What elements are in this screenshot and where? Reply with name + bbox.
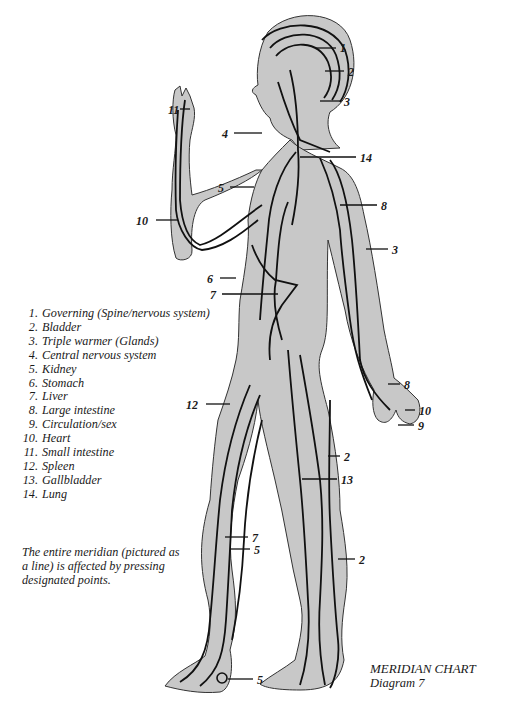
callout-label: 10 <box>136 215 148 227</box>
legend-item: 10.Heart <box>18 432 218 446</box>
legend-label: Small intestine <box>42 446 218 460</box>
legend-number: 14. <box>18 488 42 502</box>
legend-label: Central nervous system <box>42 349 218 363</box>
legend-number: 2. <box>18 321 42 335</box>
callout-label: 9 <box>418 420 424 432</box>
callout-label: 11 <box>168 104 179 116</box>
legend-label: Heart <box>42 432 218 446</box>
legend-label: Triple warmer (Glands) <box>42 335 218 349</box>
legend-item: 14.Lung <box>18 488 218 502</box>
legend-number: 11. <box>18 446 42 460</box>
legend-number: 6. <box>18 377 42 391</box>
legend-item: 3.Triple warmer (Glands) <box>18 335 218 349</box>
caption-title: MERIDIAN CHART <box>370 662 476 676</box>
legend-label: Spleen <box>42 460 218 474</box>
legend-number: 4. <box>18 349 42 363</box>
legend-item: 13.Gallbladder <box>18 474 218 488</box>
callout-label: 5 <box>218 182 224 194</box>
legend-label: Kidney <box>42 363 218 377</box>
callout-label: 3 <box>344 96 350 108</box>
callout-label: 2 <box>344 451 350 463</box>
callout-label: 13 <box>341 474 353 486</box>
explanatory-note: The entire meridian (pictured as a line)… <box>22 545 182 587</box>
legend-number: 9. <box>18 418 42 432</box>
callout-label: 3 <box>392 244 398 256</box>
callout-label: 1 <box>340 42 346 54</box>
legend-item: 2.Bladder <box>18 321 218 335</box>
figure-caption: MERIDIAN CHART Diagram 7 <box>370 662 476 690</box>
legend-number: 5. <box>18 363 42 377</box>
legend-number: 13. <box>18 474 42 488</box>
legend-item: 5.Kidney <box>18 363 218 377</box>
legend-label: Gallbladder <box>42 474 218 488</box>
legend-item: 4.Central nervous system <box>18 349 218 363</box>
legend-number: 7. <box>18 390 42 404</box>
legend-number: 1. <box>18 307 42 321</box>
legend-item: 1.Governing (Spine/nervous system) <box>18 307 218 321</box>
legend-label: Stomach <box>42 377 218 391</box>
legend-number: 10. <box>18 432 42 446</box>
legend-label: Circulation/sex <box>42 418 218 432</box>
callout-label: 2 <box>359 554 365 566</box>
legend-label: Large intestine <box>42 404 218 418</box>
callout-label: 10 <box>419 405 431 417</box>
meridian-legend: 1.Governing (Spine/nervous system) 2.Bla… <box>18 307 218 502</box>
callout-label: 5 <box>254 544 260 556</box>
callout-label: 6 <box>207 273 213 285</box>
callout-label: 7 <box>210 289 216 301</box>
legend-item: 12.Spleen <box>18 460 218 474</box>
legend-label: Governing (Spine/nervous system) <box>42 307 218 321</box>
callout-label: 8 <box>404 379 410 391</box>
callout-label: 5 <box>257 674 263 686</box>
callout-label: 2 <box>348 66 354 78</box>
callout-label: 4 <box>222 128 228 140</box>
caption-subtitle: Diagram 7 <box>370 676 476 690</box>
legend-label: Liver <box>42 390 218 404</box>
legend-label: Bladder <box>42 321 218 335</box>
callout-label: 14 <box>360 152 372 164</box>
legend-item: 7.Liver <box>18 390 218 404</box>
callout-label: 8 <box>381 200 387 212</box>
legend-number: 12. <box>18 460 42 474</box>
legend-number: 8. <box>18 404 42 418</box>
legend-item: 9.Circulation/sex <box>18 418 218 432</box>
legend-number: 3. <box>18 335 42 349</box>
legend-label: Lung <box>42 488 218 502</box>
legend-item: 11.Small intestine <box>18 446 218 460</box>
legend-item: 6.Stomach <box>18 377 218 391</box>
legend-item: 8.Large intestine <box>18 404 218 418</box>
